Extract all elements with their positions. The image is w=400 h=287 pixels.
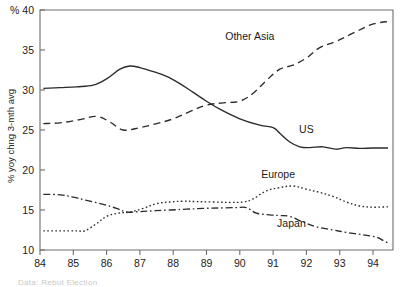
series-label-us: US	[299, 123, 314, 135]
x-tick-label: 85	[67, 257, 79, 269]
series-line-japan	[43, 194, 388, 242]
series-layer	[43, 22, 388, 243]
x-tick-label: 87	[134, 257, 146, 269]
series-label-other-asia: Other Asia	[225, 30, 274, 42]
series-line-other-asia	[43, 22, 388, 131]
y-axis-title: % yoy chng 3-mth avg	[5, 89, 16, 183]
y-tick-label: 25	[22, 124, 34, 136]
x-tick-label: 84	[34, 257, 46, 269]
x-tick-label: 92	[301, 257, 313, 269]
series-label-europe: Europe	[261, 168, 295, 180]
series-line-us	[43, 66, 388, 149]
y-tick-label: 35	[22, 44, 34, 56]
footer-note: Data: Rebut Election	[18, 278, 97, 287]
x-tick-label: 91	[267, 257, 279, 269]
y-axis-max-label: % 40	[10, 4, 34, 16]
x-tick-label: 93	[334, 257, 346, 269]
y-tick-label: 20	[22, 164, 34, 176]
x-tick-label: 94	[367, 257, 379, 269]
x-tick-label: 86	[101, 257, 113, 269]
y-tick-label: 30	[22, 84, 34, 96]
y-tick-label: 15	[22, 204, 34, 216]
x-tick-label: 90	[234, 257, 246, 269]
y-tick-label: 10	[22, 244, 34, 256]
x-tick-label: 89	[201, 257, 213, 269]
x-tick-label: 88	[167, 257, 179, 269]
axes-layer: 353025201510% 408485868788899091929394% …	[5, 4, 393, 269]
plot-frame	[40, 10, 393, 250]
annotations-layer: USOther AsiaEuropeJapan	[225, 30, 313, 229]
series-label-japan: Japan	[277, 217, 306, 229]
